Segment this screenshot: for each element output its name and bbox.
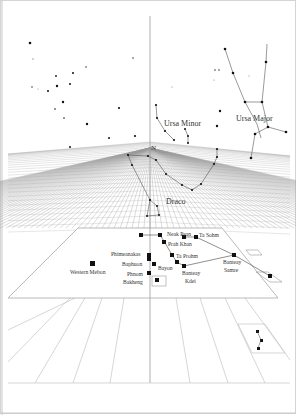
label-ta-sohm: Ta Sohm	[199, 232, 220, 238]
ursa-major	[225, 44, 286, 158]
sky-ground-diagram: Neak Pean Ta Sohm Prah Khan Ta Prohm Phi…	[0, 0, 296, 415]
label-samre: Samre	[224, 267, 239, 273]
label-banteay-kdei: Banteay	[182, 270, 201, 276]
label-western-mebon: Western Mebon	[70, 269, 106, 275]
label-ursa-major: Ursa Major	[236, 114, 273, 123]
label-neak-pean: Neak Pean	[167, 231, 191, 237]
label-ursa-minor: Ursa Minor	[164, 119, 201, 128]
background-stars	[29, 42, 250, 148]
inset-box	[238, 324, 285, 353]
label-ta-prohm: Ta Prohm	[176, 253, 198, 259]
ursa-major-stars	[224, 48, 288, 160]
figure-frame: Neak Pean Ta Sohm Prah Khan Ta Prohm Phi…	[0, 0, 296, 415]
label-kdei: Kdei	[185, 278, 196, 284]
highlight-box	[246, 250, 262, 255]
label-bayon: Bayon	[158, 265, 173, 271]
label-bakheng: Bakheng	[123, 279, 143, 285]
label-phimeanakas: Phimeanakas	[111, 251, 141, 257]
label-banteay-samre: Banteay	[223, 259, 242, 265]
north-label: N	[151, 144, 156, 152]
ground-lines	[8, 298, 290, 383]
label-draco: Draco	[166, 197, 186, 206]
label-phnom: Phnom	[127, 271, 144, 277]
label-baphuon: Baphuon	[122, 261, 142, 267]
label-prah-khan: Prah Khan	[168, 241, 192, 247]
